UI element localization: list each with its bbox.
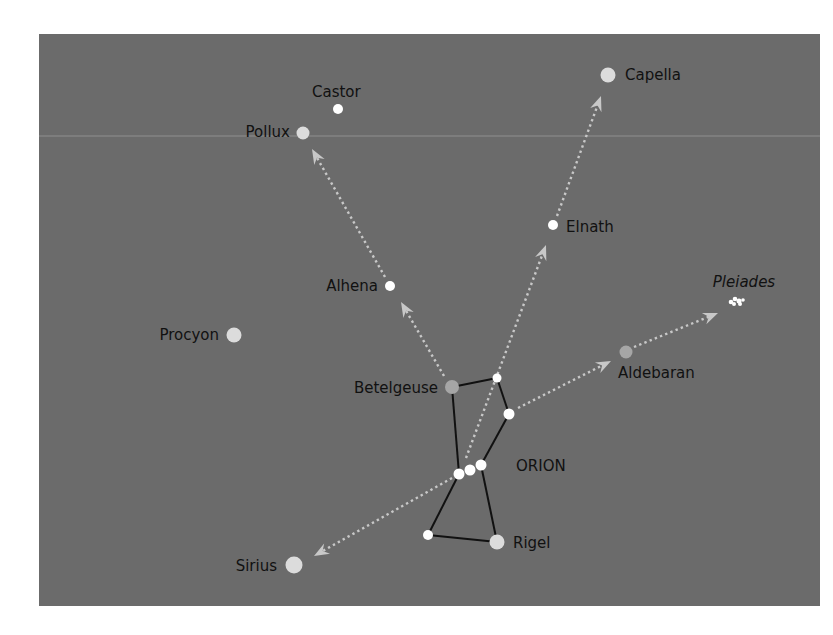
guide-arrows	[312, 96, 718, 556]
pleiades-cluster-icon	[729, 297, 745, 306]
guide-arrow-alhena-to-pollux	[312, 149, 385, 277]
label-betelgeuse: Betelgeuse	[354, 379, 438, 397]
guide-arrow-orion-belt-to-elnath	[466, 245, 546, 458]
arrowhead-icon	[702, 313, 718, 324]
pleiades-star-icon	[738, 302, 742, 306]
star-pollux-icon	[297, 127, 310, 140]
label-aldebaran: Aldebaran	[618, 364, 695, 382]
label-elnath: Elnath	[566, 218, 614, 236]
arrowhead-icon	[401, 302, 414, 318]
label-pleiades: Pleiades	[713, 273, 776, 291]
star-rigel-icon	[490, 535, 505, 550]
orion-line	[481, 465, 497, 542]
label-castor: Castor	[312, 83, 362, 101]
orion-star-map: CastorPolluxCapellaElnathAlhenaProcyonAl…	[0, 0, 833, 635]
star-bellatrix-icon	[493, 374, 502, 383]
guide-arrow-betelgeuse-to-alhena	[401, 302, 444, 376]
label-sirius: Sirius	[236, 557, 278, 575]
star-procyon-icon	[227, 328, 242, 343]
star-saiph-icon	[423, 530, 433, 540]
guide-arrow-elnath-to-capella	[557, 96, 601, 216]
star-capella-icon	[601, 68, 616, 83]
star-alnilam-icon	[465, 465, 476, 476]
star-alnitak-icon	[454, 469, 465, 480]
orion-line	[481, 414, 509, 465]
star-labels: CastorPolluxCapellaElnathAlhenaProcyonAl…	[159, 66, 775, 575]
orion-line	[428, 535, 497, 542]
guide-arrow-orion-belt-to-sirius	[314, 478, 452, 556]
label-capella: Capella	[625, 66, 681, 84]
orion-line	[428, 474, 459, 535]
star-castor-icon	[333, 104, 343, 114]
arrowhead-icon	[312, 149, 325, 165]
star-orion-star-3-icon	[504, 409, 515, 420]
constellation-name: ORION	[516, 457, 566, 475]
pleiades-star-icon	[732, 302, 736, 306]
pleiades-star-icon	[741, 298, 745, 302]
star-elnath-icon	[548, 220, 558, 230]
stars	[227, 68, 633, 574]
arrowhead-icon	[314, 543, 330, 556]
orion-line	[452, 387, 459, 474]
star-mintaka-icon	[476, 460, 487, 471]
guide-arrow-orion-to-aldebaran	[518, 361, 611, 408]
guide-arrow-aldebaran-to-pleiades	[634, 313, 718, 347]
arrowhead-icon	[595, 361, 611, 373]
label-procyon: Procyon	[159, 326, 219, 344]
orion-line	[497, 378, 509, 414]
star-alhena-icon	[385, 281, 395, 291]
star-sirius-icon	[286, 557, 303, 574]
orion-outline	[428, 378, 509, 542]
star-aldebaran-icon	[620, 346, 633, 359]
label-alhena: Alhena	[326, 277, 378, 295]
label-rigel: Rigel	[513, 534, 551, 552]
star-betelgeuse-icon	[445, 380, 459, 394]
label-pollux: Pollux	[246, 123, 291, 141]
